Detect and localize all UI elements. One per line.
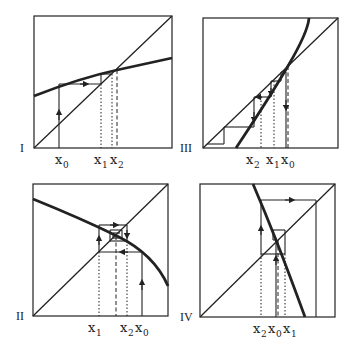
- panel-III-curve: [236, 18, 309, 148]
- panel-I-diagonal: [34, 16, 172, 148]
- panel-III-label: III: [180, 141, 192, 155]
- svg-text:2: 2: [261, 329, 267, 339]
- svg-text:2: 2: [128, 328, 134, 338]
- panel-III-axis-labels: x2 x1 x0: [246, 152, 295, 170]
- panel-I-axis-labels: x0 x1 x2: [55, 152, 124, 170]
- svg-text:0: 0: [63, 160, 69, 170]
- svg-text:x: x: [55, 152, 63, 167]
- panel-IV-axis-labels: x2 x0 x1: [253, 321, 297, 339]
- panel-II-label: II: [16, 309, 24, 323]
- svg-text:0: 0: [276, 329, 282, 339]
- svg-text:x: x: [253, 321, 261, 336]
- svg-text:x: x: [120, 320, 128, 335]
- svg-text:x: x: [266, 152, 274, 167]
- svg-text:x: x: [283, 321, 291, 336]
- svg-text:x: x: [94, 152, 102, 167]
- svg-text:1: 1: [102, 160, 108, 170]
- panel-IV-label: IV: [180, 310, 193, 324]
- panel-II: [33, 184, 168, 316]
- panel-I-curve: [34, 58, 172, 96]
- svg-text:x: x: [281, 152, 289, 167]
- svg-text:1: 1: [96, 328, 102, 338]
- cobweb-figure: I x0 x1 x2 III x2 x1: [0, 0, 355, 348]
- panel-IV-diagonal: [200, 184, 335, 317]
- svg-text:2: 2: [254, 160, 260, 170]
- svg-text:0: 0: [289, 160, 295, 170]
- svg-text:2: 2: [118, 160, 124, 170]
- panel-II-axis-labels: x1 x2 x0: [88, 320, 149, 338]
- panel-II-curve: [33, 199, 168, 286]
- svg-text:1: 1: [291, 329, 297, 339]
- svg-text:x: x: [110, 152, 118, 167]
- panel-IV: [200, 184, 335, 317]
- svg-text:x: x: [268, 321, 276, 336]
- svg-text:x: x: [88, 320, 96, 335]
- panel-III: [203, 18, 338, 148]
- svg-text:x: x: [246, 152, 254, 167]
- panel-I-label: I: [20, 141, 24, 155]
- svg-text:x: x: [135, 320, 143, 335]
- svg-text:1: 1: [274, 160, 280, 170]
- svg-text:0: 0: [143, 328, 149, 338]
- panel-II-diagonal: [33, 184, 168, 316]
- panel-IV-cobweb: [261, 200, 316, 317]
- panel-I: [34, 16, 172, 148]
